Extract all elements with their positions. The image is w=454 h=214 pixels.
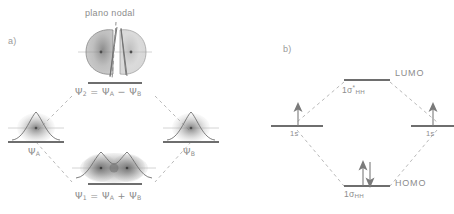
label-bonding-equation: Ψ1 = ΨA + ΨB [75, 190, 142, 201]
panel-a-graphics [0, 0, 227, 214]
correlation-lines-b [297, 82, 437, 186]
label-bonding-mo: 1σHH [344, 189, 364, 199]
orbital-antibonding [78, 27, 152, 77]
label-atomic-right: 1s [426, 129, 435, 138]
panel-b-energy-level-diagram: b) 1σ*HH [227, 0, 454, 214]
electron-arrow-right [429, 102, 438, 126]
label-atomic-b: ΨB [183, 146, 195, 157]
label-atomic-a: ΨA [28, 146, 40, 157]
annotation-homo: HOMO [395, 178, 426, 188]
label-antibonding-mo: 1σ*HH [342, 84, 365, 95]
orbital-atomic-a [8, 112, 64, 143]
panel-a-orbital-wavefunctions: a) plano nodal [0, 0, 227, 214]
orbital-atomic-b [163, 112, 219, 143]
electron-arrow-left [294, 102, 303, 126]
label-atomic-left: 1s [290, 129, 299, 138]
electron-pair-bonding [359, 160, 375, 188]
label-antibonding-equation: Ψ2 = ΨA − ΨB [75, 86, 142, 97]
orbital-bonding [72, 152, 156, 183]
annotation-lumo: LUMO [395, 68, 424, 78]
